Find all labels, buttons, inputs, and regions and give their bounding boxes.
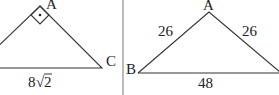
base-label-coef: 8 <box>28 74 36 90</box>
right-angle-dot-icon <box>39 14 42 17</box>
right-triangle: A B 26 26 48 <box>126 0 279 91</box>
base-label-radicand: 2 <box>44 74 52 90</box>
side-label-ac: 26 <box>242 23 258 39</box>
side-label-bc: 48 <box>198 75 213 91</box>
left-triangle-sides <box>0 6 102 68</box>
side-label-ab: 26 <box>158 23 174 39</box>
geometry-diagram: A C 8 √ 2 A B 26 26 48 <box>0 0 279 95</box>
left-triangle: A C 8 √ 2 <box>0 0 116 90</box>
right-triangle-sides <box>138 12 279 73</box>
vertex-label-a-left: A <box>46 0 57 12</box>
vertex-label-b: B <box>126 61 136 77</box>
vertex-label-a-right: A <box>203 0 214 13</box>
vertex-label-c: C <box>106 53 116 69</box>
base-label-left: 8 √ 2 <box>28 74 52 90</box>
